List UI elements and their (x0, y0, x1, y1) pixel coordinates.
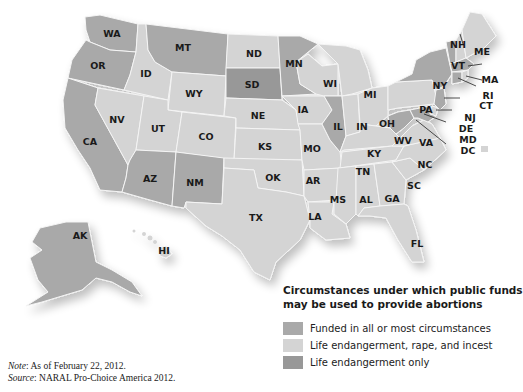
label-IL: IL (333, 121, 343, 132)
label-GA: GA (384, 193, 400, 204)
hi-island-4 (133, 230, 136, 233)
legend-label-life-rape-incest: Life endangerment, rape, and incest (310, 340, 492, 351)
source-label: Source (8, 373, 34, 383)
label-IA: IA (298, 104, 310, 115)
source-text: : NARAL Pro-Choice America 2012. (34, 373, 175, 383)
label-AL: AL (359, 194, 372, 205)
label-SC: SC (407, 180, 421, 191)
source-line: Source: NARAL Pro-Choice America 2012. (8, 373, 175, 385)
label-MI: MI (364, 89, 377, 100)
label-NE: NE (251, 110, 265, 121)
label-NH: NH (450, 39, 466, 50)
legend-item-life-only: Life endangerment only (283, 354, 523, 370)
label-WA: WA (103, 28, 121, 39)
label-MT: MT (175, 42, 191, 53)
label-MS: MS (330, 194, 346, 205)
label-MD: MD (459, 134, 476, 145)
hi-island-1 (148, 236, 153, 241)
label-CO: CO (198, 131, 213, 142)
label-CA: CA (83, 136, 98, 147)
legend: Circumstances under which public funds m… (283, 283, 523, 371)
label-TN: TN (356, 166, 370, 177)
legend-item-funded: Funded in all or most circumstances (283, 320, 523, 336)
label-ND: ND (246, 48, 262, 59)
legend-title-line2: may be used to provide abortions (283, 297, 523, 311)
legend-swatch-funded (283, 322, 303, 335)
label-NV: NV (109, 114, 125, 125)
label-HI: HI (158, 245, 170, 256)
label-SD: SD (245, 79, 260, 90)
note-text: : As of February 22, 2012. (26, 361, 126, 371)
label-PA: PA (419, 104, 433, 115)
label-ME: ME (474, 46, 490, 57)
legend-label-life-only: Life endangerment only (310, 357, 429, 368)
label-LA: LA (308, 211, 322, 222)
label-OH: OH (379, 118, 395, 129)
label-OR: OR (90, 60, 106, 71)
label-AZ: AZ (143, 173, 157, 184)
label-TX: TX (249, 212, 263, 223)
label-ID: ID (140, 68, 152, 79)
label-WI: WI (323, 78, 337, 89)
label-CT: CT (479, 100, 493, 111)
label-VT: VT (451, 60, 465, 71)
label-WV: WV (394, 135, 412, 146)
dc-swatch (481, 146, 488, 152)
label-MO: MO (303, 143, 321, 154)
legend-swatch-life-only (283, 356, 303, 369)
footnotes: Note: As of February 22, 2012. Source: N… (8, 361, 175, 384)
label-NY: NY (433, 80, 448, 91)
note-label: Note (8, 361, 26, 371)
note-line: Note: As of February 22, 2012. (8, 361, 175, 373)
label-NM: NM (186, 177, 203, 188)
label-DC: DC (461, 145, 476, 156)
state-NJ (434, 88, 446, 110)
label-AR: AR (306, 175, 321, 186)
label-UT: UT (151, 123, 166, 134)
label-KS: KS (258, 141, 272, 152)
legend-title: Circumstances under which public funds m… (283, 283, 523, 311)
label-KY: KY (367, 148, 381, 159)
label-AK: AK (73, 230, 88, 241)
label-NC: NC (418, 159, 433, 170)
label-MN: MN (285, 58, 302, 69)
state-FL (358, 204, 424, 262)
hi-island-3 (153, 240, 157, 244)
legend-title-line1: Circumstances under which public funds (283, 283, 523, 297)
legend-item-life-rape-incest: Life endangerment, rape, and incest (283, 337, 523, 353)
label-WY: WY (185, 88, 202, 99)
legend-swatch-life-rape-incest (283, 339, 303, 352)
label-OK: OK (265, 172, 281, 183)
label-FL: FL (411, 238, 424, 249)
label-VA: VA (419, 137, 434, 148)
label-MA: MA (482, 74, 499, 85)
label-NJ: NJ (464, 112, 476, 123)
legend-label-funded: Funded in all or most circumstances (310, 323, 491, 334)
hi-island-2 (142, 232, 146, 236)
label-DE: DE (459, 123, 473, 134)
state-CT (452, 72, 462, 84)
label-IN: IN (356, 121, 368, 132)
